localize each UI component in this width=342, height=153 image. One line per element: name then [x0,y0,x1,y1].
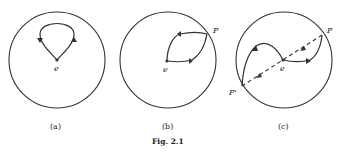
panel-label-a: (a) [50,122,61,131]
arrow-icon [177,31,181,37]
identity-point [165,59,168,62]
upper-path [167,33,207,62]
arrow-icon [306,58,311,64]
curved-path-left [242,43,283,86]
panel-label-c: (c) [278,122,289,131]
boundary-label-p: P [212,26,219,35]
panel-c: e P P' (c) [228,12,333,131]
identity-point [55,58,58,61]
antipode-label-p-prime: P' [228,88,237,97]
point-label-e: e [280,64,285,73]
lower-path [167,34,207,62]
boundary-label-p: P [326,26,333,35]
point-label-e: e [163,65,168,74]
panel-label-b: (b) [162,122,173,131]
loop-path [40,24,74,61]
point-label-e: e [54,64,59,73]
identity-point [281,58,284,61]
figure-2-1: e (a) e P (b) Fig. 2.1 e P P' (c) [0,0,342,153]
figure-caption: Fig. 2.1 [152,137,184,146]
arrow-icon [71,37,77,42]
panel-b: e P (b) Fig. 2.1 [120,12,219,146]
arrow-icon [189,58,193,64]
panel-a: e (a) [9,12,105,131]
